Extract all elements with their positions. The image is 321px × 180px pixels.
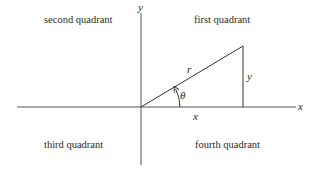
first-quadrant-label: first quadrant [194,14,250,25]
second-quadrant-label: second quadrant [44,14,113,25]
x-axis-label: x [297,100,303,112]
y-axis-label: y [137,1,143,13]
coordinate-diagram: y x r y x θ second quadrant first quadra… [0,0,321,180]
hypotenuse-label: r [187,63,192,75]
hypotenuse-r [141,46,243,107]
adjacent-label: x [192,110,198,122]
angle-label: θ [180,89,186,101]
third-quadrant-label: third quadrant [44,139,103,150]
opposite-label: y [246,70,252,82]
fourth-quadrant-label: fourth quadrant [195,139,260,150]
